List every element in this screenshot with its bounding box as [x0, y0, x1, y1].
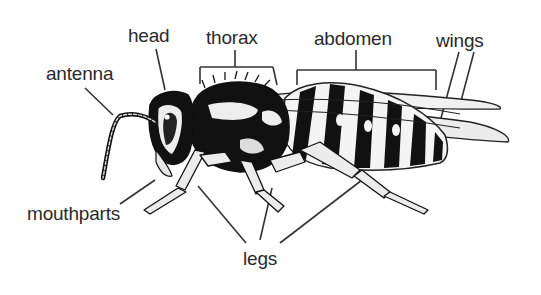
label-head: head [128, 26, 169, 45]
label-antenna: antenna [46, 64, 113, 83]
head [149, 92, 193, 177]
wasp-anatomy-diagram: head thorax abdomen wings antenna mouthp… [0, 0, 541, 295]
label-legs: legs [243, 249, 277, 268]
label-wings: wings [436, 31, 484, 50]
label-mouthparts: mouthparts [27, 204, 120, 223]
label-abdomen: abdomen [314, 29, 392, 48]
antenna [103, 114, 155, 178]
label-thorax: thorax [206, 28, 258, 47]
